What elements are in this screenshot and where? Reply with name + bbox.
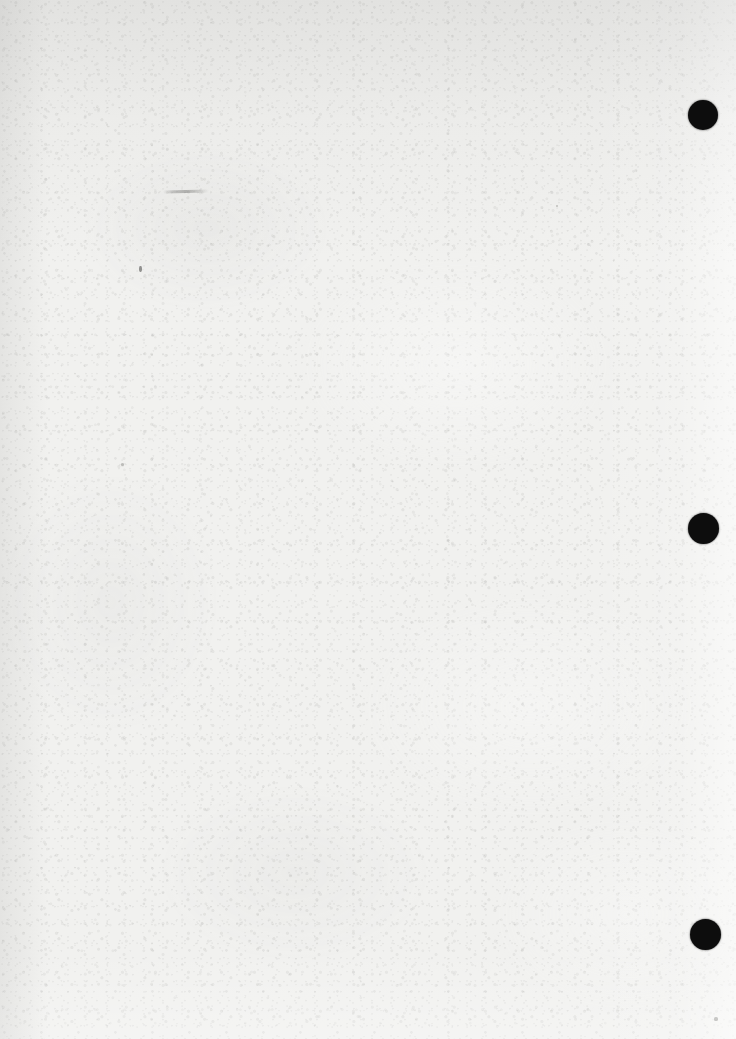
register-dot-bottom bbox=[690, 919, 721, 950]
ink-speck-corner-artifact bbox=[714, 1017, 718, 1021]
register-dot-top bbox=[688, 100, 718, 130]
ink-speck-midright-artifact bbox=[556, 205, 558, 207]
ink-speck-lower-artifact bbox=[121, 463, 124, 466]
paper-vignette bbox=[0, 0, 736, 1039]
register-dot-middle bbox=[688, 513, 719, 544]
ink-speck-left-artifact bbox=[139, 266, 142, 272]
scanned-page bbox=[0, 0, 736, 1039]
